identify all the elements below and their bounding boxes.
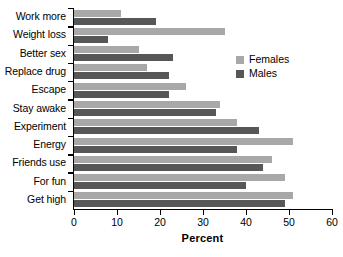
bar-males: [74, 36, 108, 43]
bar-males: [74, 182, 246, 189]
x-axis-tick-label: 0: [59, 216, 89, 228]
y-axis-label: Better sex: [20, 48, 66, 59]
x-axis-tick-label: 10: [102, 216, 132, 228]
legend-label-males: Males: [249, 67, 277, 80]
x-axis-title-text: Percent: [182, 232, 224, 244]
bar-females: [74, 28, 225, 35]
y-axis-tick: [68, 118, 73, 119]
bar-females: [74, 46, 139, 53]
bar-males: [74, 18, 156, 25]
x-axis-tick: [289, 210, 290, 215]
legend-swatch-males-icon: [236, 70, 244, 78]
bar-females: [74, 83, 186, 90]
y-axis-label: Experiment: [14, 121, 66, 132]
legend-swatch-females-icon: [236, 56, 244, 64]
bar-males: [74, 54, 173, 61]
x-axis-tick: [117, 210, 118, 215]
bar-males: [74, 200, 285, 207]
y-axis-label: Friends use: [12, 157, 66, 168]
y-axis-label: Work more: [16, 11, 66, 22]
plot-area: [74, 8, 332, 209]
bar-males: [74, 146, 237, 153]
y-axis-tick: [68, 191, 73, 192]
y-axis-tick: [68, 45, 73, 46]
y-axis-tick: [68, 154, 73, 155]
bar-females: [74, 101, 220, 108]
bar-females: [74, 192, 293, 199]
y-axis-tick: [68, 172, 73, 173]
bar-females: [74, 174, 285, 181]
bar-females: [74, 10, 121, 17]
x-axis-tick-label: 50: [274, 216, 304, 228]
y-axis-label: Energy: [33, 139, 66, 150]
bar-males: [74, 109, 216, 116]
y-axis-label: Get high: [27, 194, 66, 205]
bar-females: [74, 138, 293, 145]
legend-item-males: Males: [236, 67, 289, 80]
legend-label-females: Females: [249, 53, 289, 66]
bar-males: [74, 72, 169, 79]
y-axis-label: Replace drug: [5, 66, 66, 77]
x-axis-tick: [246, 210, 247, 215]
y-axis-tick: [68, 99, 73, 100]
x-axis-tick-label: 20: [145, 216, 175, 228]
y-axis-tick: [68, 8, 73, 9]
bar-females: [74, 156, 272, 163]
x-axis-tick-label: 60: [317, 216, 343, 228]
x-axis-title: Percent: [0, 232, 343, 244]
bar-males: [74, 164, 263, 171]
x-axis-tick: [74, 210, 75, 215]
x-axis-tick: [203, 210, 204, 215]
y-axis-label: For fun: [33, 176, 66, 187]
bar-males: [74, 127, 259, 134]
y-axis-label: Escape: [32, 84, 66, 95]
legend-item-females: Females: [236, 53, 289, 66]
y-axis-label: Stay awake: [13, 103, 66, 114]
bar-females: [74, 119, 237, 126]
bar-males: [74, 91, 169, 98]
y-axis-tick: [68, 81, 73, 82]
x-axis-tick-label: 30: [188, 216, 218, 228]
y-axis-label: Weight loss: [13, 29, 66, 40]
x-axis-tick: [332, 210, 333, 215]
bar-chart: Work moreWeight lossBetter sexReplace dr…: [0, 0, 343, 257]
y-axis-tick: [68, 63, 73, 64]
x-axis-tick-label: 40: [231, 216, 261, 228]
y-axis-tick: [68, 26, 73, 27]
x-axis-tick: [160, 210, 161, 215]
bar-females: [74, 64, 147, 71]
chart-legend: Females Males: [236, 53, 289, 81]
y-axis-tick: [68, 136, 73, 137]
